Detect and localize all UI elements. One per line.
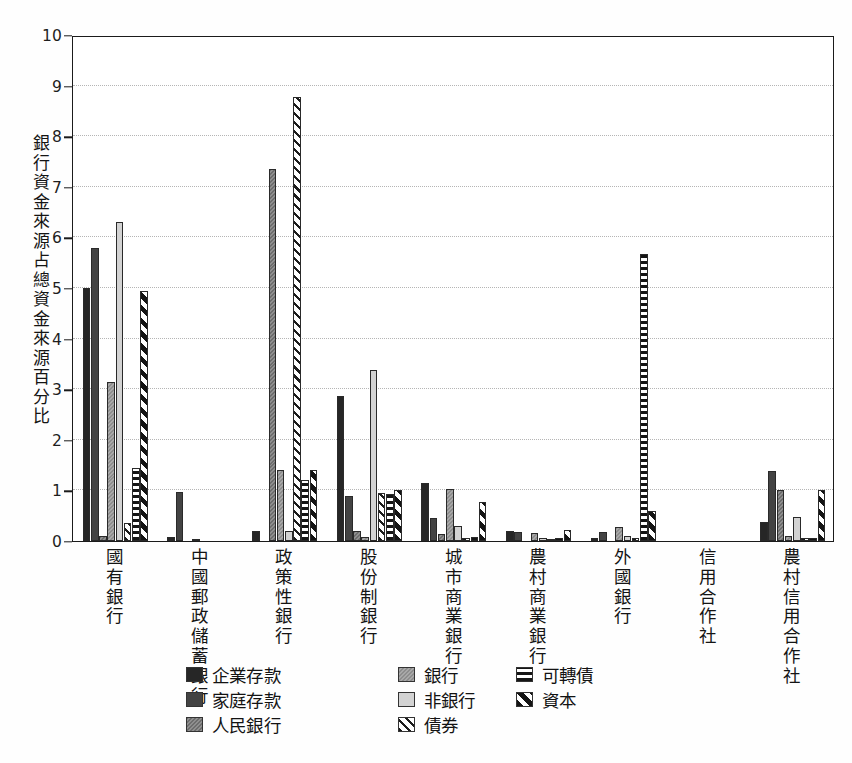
y-axis-tick-mark [64, 389, 72, 390]
bar [116, 222, 124, 541]
legend-label: 家庭存款 [212, 687, 281, 712]
legend-item[interactable]: 銀行 [398, 662, 476, 687]
legend-swatch-icon [398, 717, 415, 732]
bar [277, 470, 285, 541]
y-axis-tick-mark [64, 136, 72, 137]
bar [591, 538, 599, 541]
bar [370, 370, 378, 541]
y-axis-tick-mark [64, 238, 72, 239]
bar [99, 536, 107, 541]
y-axis-tick-mark [64, 339, 72, 340]
bar [539, 538, 547, 541]
bar [438, 534, 446, 541]
legend-label: 企業存款 [212, 662, 281, 687]
x-axis-label: 外國銀行 [611, 548, 633, 627]
bar-group [327, 37, 412, 541]
y-axis-tick-mark [64, 187, 72, 188]
bar [462, 538, 470, 541]
y-axis-tick-mark [64, 35, 72, 36]
y-axis-tick-label: 1 [52, 482, 62, 500]
legend-item[interactable]: 資本 [516, 687, 594, 712]
legend-item[interactable]: 可轉債 [516, 662, 594, 687]
legend-swatch-icon [186, 667, 203, 682]
y-axis-tick-mark [64, 440, 72, 441]
y-axis-tick-label: 10 [42, 27, 62, 45]
x-axis-label: 國有銀行 [103, 548, 125, 627]
legend-label: 債券 [424, 712, 458, 737]
legend-swatch-icon [516, 692, 533, 707]
legend-item[interactable]: 債券 [398, 712, 476, 737]
bar [167, 537, 175, 541]
bar [547, 539, 555, 541]
bar [252, 531, 260, 541]
bar [818, 490, 826, 541]
legend-column: 可轉債資本 [516, 662, 594, 712]
legend-item[interactable]: 家庭存款 [186, 687, 281, 712]
bar [632, 538, 640, 541]
bar [140, 291, 148, 541]
bar [640, 254, 648, 541]
legend-item[interactable]: 企業存款 [186, 662, 281, 687]
y-axis: 012345678910 [0, 36, 72, 542]
y-axis-tick-label: 3 [52, 381, 62, 399]
y-axis-tick-label: 0 [52, 533, 62, 551]
bar [506, 531, 514, 541]
x-axis-labels: 國有銀行中國郵政儲蓄銀行政策性銀行股份制銀行城市商業銀行農村商業銀行外國銀行信用… [72, 548, 834, 660]
legend-label: 可轉債 [542, 662, 594, 687]
bar [285, 531, 293, 541]
plot-area [73, 37, 833, 541]
y-axis-tick-mark [64, 86, 72, 87]
bar [293, 97, 301, 541]
bar-group [412, 37, 497, 541]
legend-swatch-icon [398, 692, 415, 707]
bar [531, 533, 539, 541]
y-axis-tick-label: 2 [52, 432, 62, 450]
y-axis-tick-label: 7 [52, 179, 62, 197]
x-axis-label: 股份制銀行 [357, 548, 379, 647]
y-axis-tick-mark [64, 288, 72, 289]
y-axis-tick-label: 9 [52, 78, 62, 96]
bar-group [750, 37, 835, 541]
x-axis-label: 農村信用合作社 [781, 548, 803, 687]
bar [809, 538, 817, 541]
bar [421, 483, 429, 541]
chart-legend: 企業存款家庭存款人民銀行銀行非銀行債券可轉債資本 [186, 662, 656, 740]
bar [555, 538, 563, 541]
legend-label: 非銀行 [424, 687, 476, 712]
y-axis-tick-mark [64, 491, 72, 492]
bar [564, 530, 572, 541]
y-axis-tick-label: 8 [52, 128, 62, 146]
bar-group [242, 37, 327, 541]
bar [269, 169, 277, 541]
bar [192, 539, 200, 541]
bar [337, 396, 345, 541]
bar [760, 522, 768, 541]
bar [785, 536, 793, 541]
bar [91, 248, 99, 541]
chart-page: 銀行資金來源占總資金來源百分比 012345678910 國有銀行中國郵政儲蓄銀… [0, 0, 852, 763]
bar [353, 531, 361, 541]
y-axis-tick-label: 6 [52, 229, 62, 247]
bar [801, 538, 809, 541]
bar-group [581, 37, 666, 541]
legend-item[interactable]: 非銀行 [398, 687, 476, 712]
legend-item[interactable]: 人民銀行 [186, 712, 281, 737]
y-axis-tick-label: 4 [52, 331, 62, 349]
bar [599, 532, 607, 541]
legend-swatch-icon [398, 667, 415, 682]
bar [446, 489, 454, 541]
x-axis-label: 城市商業銀行 [442, 548, 464, 667]
bar [132, 468, 140, 541]
x-axis-label: 信用合作社 [696, 548, 718, 647]
legend-label: 銀行 [424, 662, 458, 687]
legend-swatch-icon [186, 717, 203, 732]
bar [793, 517, 801, 541]
x-axis-label: 農村商業銀行 [527, 548, 549, 667]
legend-label: 人民銀行 [212, 712, 281, 737]
bar [394, 490, 402, 541]
legend-column: 銀行非銀行債券 [398, 662, 476, 737]
bar [176, 492, 184, 541]
x-axis-label: 政策性銀行 [273, 548, 295, 647]
legend-swatch-icon [516, 667, 533, 682]
bar [624, 536, 632, 541]
